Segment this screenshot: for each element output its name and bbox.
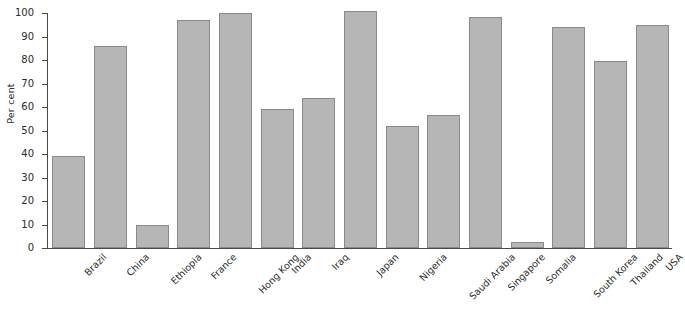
- plot-area: 0102030405060708090100: [47, 13, 672, 249]
- y-axis-tick-label: 30: [21, 173, 34, 183]
- y-axis-tick-label: 40: [21, 149, 34, 159]
- y-axis-tick: 30: [42, 178, 47, 179]
- x-axis-tick-label: Hong Kong: [257, 252, 300, 295]
- x-axis-tick-label: Saudi Arabia: [467, 252, 516, 301]
- y-axis-tick-label: 60: [21, 102, 34, 112]
- y-axis-tick-label: 10: [21, 220, 34, 230]
- x-axis-tick-label: Somalia: [544, 252, 578, 286]
- y-axis-tick-label: 80: [21, 55, 34, 65]
- x-axis-tick-label: Nigeria: [418, 252, 449, 283]
- bar[interactable]: [469, 17, 502, 248]
- y-axis-tick: 100: [42, 13, 47, 14]
- y-axis-tick: 20: [42, 201, 47, 202]
- bar[interactable]: [386, 126, 419, 248]
- x-axis-tick-label: Ethiopia: [169, 252, 203, 286]
- bar[interactable]: [136, 225, 169, 249]
- x-axis-tick-labels: BrazilChinaEthiopiaFranceHong KongIndiaI…: [47, 252, 672, 300]
- x-axis-tick-label: Brazil: [83, 252, 108, 277]
- x-axis-tick-label: USA: [664, 252, 685, 273]
- bar[interactable]: [177, 20, 210, 248]
- bar[interactable]: [219, 13, 252, 248]
- bar[interactable]: [511, 242, 544, 248]
- y-axis-tick-label: 20: [21, 196, 34, 206]
- bar[interactable]: [344, 11, 377, 248]
- bar[interactable]: [94, 46, 127, 248]
- y-axis-tick-label: 50: [21, 126, 34, 136]
- y-axis-tick-label: 70: [21, 79, 34, 89]
- y-axis-tick: 60: [42, 107, 47, 108]
- y-axis-title: Per cent: [5, 68, 16, 140]
- bar[interactable]: [427, 115, 460, 248]
- bar-series: [48, 13, 672, 248]
- x-axis-tick-label: China: [124, 252, 150, 278]
- bar[interactable]: [261, 109, 294, 248]
- y-axis-tick: 40: [42, 154, 47, 155]
- x-axis-line: [47, 248, 672, 249]
- y-axis-tick: 50: [42, 131, 47, 132]
- y-axis-tick: 10: [42, 225, 47, 226]
- bar[interactable]: [594, 61, 627, 248]
- bar[interactable]: [636, 25, 669, 248]
- y-axis-tick-label: 100: [15, 8, 34, 18]
- y-axis-tick: 80: [42, 60, 47, 61]
- x-axis-tick-label: France: [209, 252, 238, 281]
- y-axis-tick: 0: [42, 248, 47, 249]
- bar[interactable]: [552, 27, 585, 248]
- y-axis-tick-label: 90: [21, 32, 34, 42]
- bar[interactable]: [52, 156, 85, 248]
- bar[interactable]: [302, 98, 335, 248]
- x-axis-tick-label: Japan: [374, 252, 399, 277]
- y-axis-tick: 90: [42, 37, 47, 38]
- y-axis-tick-label: 0: [28, 243, 34, 253]
- x-axis-tick-label: Iraq: [330, 252, 350, 272]
- y-axis-tick: 70: [42, 84, 47, 85]
